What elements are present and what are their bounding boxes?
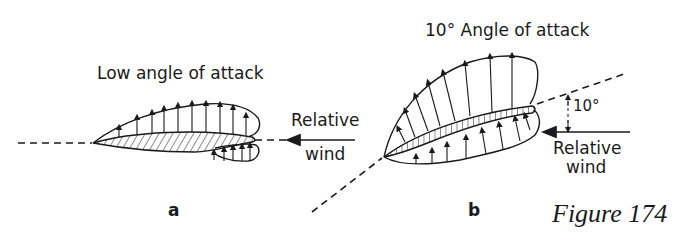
airfoil-a xyxy=(93,132,255,152)
panel-a-letter: a xyxy=(168,202,179,219)
panel-b-letter: b xyxy=(468,202,480,219)
panel-b-wind-label-line2: wind xyxy=(566,159,606,176)
panel-b-angle-label: 10° xyxy=(573,99,600,114)
panel-a-wind-label-line1: Relative xyxy=(291,112,360,129)
panel-b-title: 10° Angle of attack xyxy=(425,22,589,39)
panel-a-wind-label-line2: wind xyxy=(305,146,345,163)
panel-b-wind-label-line1: Relative xyxy=(553,140,622,157)
lower-pressure-envelope-b xyxy=(384,110,539,164)
figure-caption: Figure 174 xyxy=(552,199,667,229)
panel-b-diagram xyxy=(312,55,630,212)
panel-a-title: Low angle of attack xyxy=(97,65,264,82)
chord-line-lower xyxy=(312,158,382,212)
